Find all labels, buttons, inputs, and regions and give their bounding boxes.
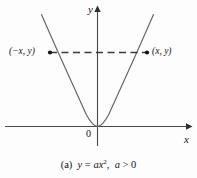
left-point-marker — [48, 50, 52, 54]
y-axis — [94, 6, 100, 147]
caption-condition-value: 0 — [131, 159, 136, 170]
caption-separator: , — [107, 159, 110, 170]
right-point-label: (x, y) — [152, 47, 172, 57]
caption-prefix: (a) — [61, 159, 73, 170]
x-axis-label: x — [184, 134, 189, 145]
plot-canvas — [0, 0, 197, 178]
parabola-figure: y x 0 (−x, y) (x, y) (a) y = ax2, a > 0 — [0, 0, 197, 178]
caption-lhs: y — [78, 159, 83, 170]
left-point-label: (−x, y) — [9, 47, 35, 57]
y-axis-label: y — [88, 4, 93, 15]
x-axis-arrowhead — [186, 123, 193, 130]
caption-coefficient: ax — [93, 159, 103, 170]
caption-condition-op: > — [123, 159, 129, 170]
right-point-marker — [145, 50, 149, 54]
caption-equals: = — [85, 159, 91, 170]
caption-condition-var: a — [115, 159, 120, 170]
origin-label: 0 — [86, 129, 91, 139]
y-axis-arrowhead — [94, 6, 100, 13]
figure-caption: (a) y = ax2, a > 0 — [0, 160, 197, 171]
